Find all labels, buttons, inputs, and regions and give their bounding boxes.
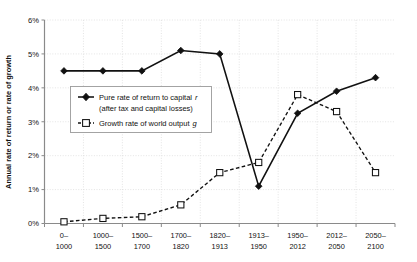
data-point-growth-rate — [372, 170, 378, 176]
x-axis-tick-label: 2012 — [289, 242, 305, 251]
data-point-growth-rate — [178, 202, 184, 208]
x-axis-tick-label: 1500– — [132, 231, 153, 240]
x-axis-tick-label: 1950– — [287, 231, 308, 240]
x-axis-tick-label: 2050 — [328, 242, 344, 251]
y-axis-tick-label: 6% — [28, 16, 39, 25]
x-axis-tick-label: 1000– — [93, 231, 114, 240]
x-axis-tick-label: 1913– — [248, 231, 269, 240]
data-point-growth-rate — [61, 219, 67, 225]
y-axis-tick-label: 1% — [28, 185, 39, 194]
data-point-growth-rate — [217, 170, 223, 176]
x-axis-tick-label: 0– — [60, 231, 69, 240]
legend-label-r-line2: (after tax and capital losses) — [99, 104, 193, 113]
data-point-growth-rate — [139, 214, 145, 220]
rate-of-return-vs-growth-chart: 0%1%2%3%4%5%6% Annual rate of return or … — [0, 0, 417, 262]
data-point-growth-rate — [295, 92, 301, 98]
open-square-icon — [83, 120, 90, 127]
x-axis-tick-label: 1820– — [209, 231, 230, 240]
x-axis-tick-label: 1820 — [173, 242, 189, 251]
x-axis-tick-label: 1913 — [212, 242, 228, 251]
x-axis-tick-label: 1700– — [171, 231, 192, 240]
x-axis-tick-label: 2050– — [365, 231, 386, 240]
y-axis-tick-label: 2% — [28, 151, 39, 160]
x-axis-tick-label: 2012– — [326, 231, 347, 240]
y-axis-tick-label: 4% — [28, 84, 39, 93]
chart-legend: Pure rate of return to capitalr (after t… — [71, 87, 212, 133]
data-point-growth-rate — [333, 108, 339, 114]
chart-container: 0%1%2%3%4%5%6% Annual rate of return or … — [0, 0, 417, 262]
y-axis-tick-label: 0% — [28, 219, 39, 228]
legend-label-g: Growth rate of world outputg — [99, 119, 197, 128]
y-axis-title: Annual rate of return or rate of growth — [4, 55, 13, 189]
legend-label-r-line1: Pure rate of return to capitalr — [99, 93, 198, 102]
x-axis-tick-label: 1000 — [56, 242, 72, 251]
x-axis-tick-label: 1950 — [250, 242, 266, 251]
data-point-growth-rate — [100, 215, 106, 221]
x-axis-tick-label: 1500 — [95, 242, 111, 251]
x-axis-tick-label: 1700 — [134, 242, 150, 251]
y-axis-tick-label: 3% — [28, 118, 39, 127]
y-axis-tick-label: 5% — [28, 50, 39, 59]
x-axis-tick-label: 2100 — [367, 242, 383, 251]
data-point-growth-rate — [256, 159, 262, 165]
